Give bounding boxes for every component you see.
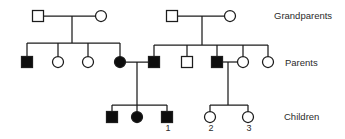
pedigree-symbol-female-II-8	[238, 57, 249, 68]
pedigree-individual-number-III-5: 3	[246, 123, 251, 133]
pedigree-symbol-male-I-1	[33, 11, 44, 22]
pedigree-individual-number-III-3: 1	[165, 123, 170, 133]
pedigree-symbol-male-III-3	[162, 112, 173, 123]
pedigree-symbol-female-I-2	[96, 11, 107, 22]
generation-label-children: Children	[284, 111, 319, 122]
pedigree-symbol-female-III-4	[205, 112, 216, 123]
pedigree-symbol-female-II-3	[83, 57, 94, 68]
pedigree-symbol-female-III-2	[132, 112, 143, 123]
pedigree-symbol-male-II-5	[149, 57, 160, 68]
pedigree-figure: 123 Grandparents Parents Children	[0, 0, 345, 139]
generation-label-grandparents: Grandparents	[274, 10, 332, 21]
pedigree-symbol-female-III-5	[243, 112, 254, 123]
pedigree-symbol-female-II-2	[53, 57, 64, 68]
pedigree-symbol-male-I-3	[167, 11, 178, 22]
pedigree-symbol-male-II-6	[182, 57, 193, 68]
pedigree-symbol-female-II-9	[263, 57, 274, 68]
pedigree-symbol-female-II-4	[115, 57, 126, 68]
pedigree-individual-number-III-4: 2	[208, 123, 213, 133]
pedigree-symbol-male-II-7	[212, 57, 223, 68]
pedigree-symbol-male-III-1	[107, 112, 118, 123]
generation-label-parents: Parents	[285, 57, 318, 68]
pedigree-symbol-female-I-4	[225, 11, 236, 22]
pedigree-symbol-male-II-1	[22, 57, 33, 68]
